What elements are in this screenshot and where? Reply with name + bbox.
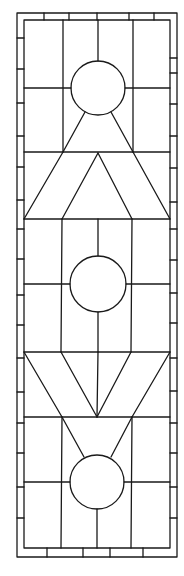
stained-glass-pattern xyxy=(0,0,184,576)
v-band xyxy=(24,352,170,417)
top-circle-section xyxy=(24,20,170,152)
top-circle xyxy=(71,61,125,115)
pattern-canvas xyxy=(0,0,184,576)
bottom-circle xyxy=(70,455,124,509)
middle-circle xyxy=(70,256,126,312)
middle-circle-section xyxy=(24,219,170,352)
bottom-circle-section xyxy=(24,417,170,548)
triangle-band xyxy=(24,152,170,219)
border-frame xyxy=(17,13,177,557)
